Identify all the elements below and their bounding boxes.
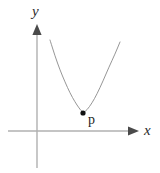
x-axis-label: x (144, 123, 151, 138)
parabola-figure: y x p (0, 0, 160, 173)
y-axis-label: y (32, 4, 39, 19)
x-axis-arrowhead-icon (128, 127, 139, 136)
point-p-label: p (88, 113, 95, 127)
coordinate-plot-svg (0, 0, 160, 173)
point-p-marker (80, 110, 85, 115)
y-axis-arrowhead-icon (32, 24, 41, 35)
parabola-curve (50, 40, 120, 112)
